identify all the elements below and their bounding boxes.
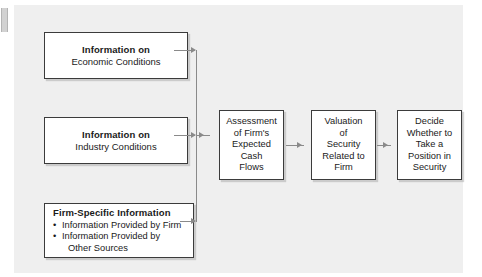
left-edge-marker xyxy=(1,8,8,32)
box-line: Take a xyxy=(416,139,443,151)
box-information-industry-conditions: Information on Industry Conditions xyxy=(44,117,188,164)
bullet-icon: • xyxy=(53,220,56,232)
box-line: Security xyxy=(413,162,447,174)
box-line: of xyxy=(340,128,348,140)
list-item-label: Information Provided by Firm xyxy=(62,220,181,230)
diagram-panel: Information on Economic Conditions Infor… xyxy=(14,5,463,273)
diagram-canvas: Information on Economic Conditions Infor… xyxy=(0,0,482,277)
box-line: of Firm's xyxy=(234,128,269,140)
bullet-icon: • xyxy=(53,231,56,243)
box-subtitle: Economic Conditions xyxy=(71,56,160,68)
arrowhead-assessment xyxy=(199,132,204,138)
box-assessment-of-expected-cash-flows: Assessment of Firm's Expected Cash Flows xyxy=(219,110,284,180)
box-line: Related to xyxy=(322,151,364,163)
box-title: Firm-Specific Information xyxy=(53,207,171,219)
box-line: Decide xyxy=(415,116,444,128)
box-line: Security xyxy=(327,139,361,151)
list-item-label: Information Provided by xyxy=(62,231,160,241)
box-firm-specific-information: Firm-Specific Information • Information … xyxy=(44,203,194,258)
box-title: Information on xyxy=(82,129,150,141)
box-subtitle: Industry Conditions xyxy=(75,141,156,153)
list-item: • Information Provided by Firm xyxy=(53,220,181,232)
arrowhead-decide xyxy=(383,142,388,148)
list-item-continuation: Other Sources xyxy=(53,243,128,255)
box-decide-position-in-security: Decide Whether to Take a Position in Sec… xyxy=(397,110,462,180)
list-item: • Information Provided by xyxy=(53,231,160,243)
box-title: Information on xyxy=(82,44,150,56)
box-line: Assessment xyxy=(226,116,277,128)
box-line: Firm xyxy=(334,162,353,174)
box-line: Expected xyxy=(232,139,271,151)
box-line: Flows xyxy=(239,162,263,174)
box-information-economic-conditions: Information on Economic Conditions xyxy=(44,32,188,79)
arrowhead-valuation xyxy=(297,142,302,148)
box-line: Cash xyxy=(241,151,263,163)
box-line: Valuation xyxy=(324,116,362,128)
connector-vertical-bus xyxy=(196,50,197,222)
box-valuation-of-security: Valuation of Security Related to Firm xyxy=(311,110,376,180)
box-line: Whether to xyxy=(407,128,452,140)
box-line: Position in xyxy=(408,151,451,163)
